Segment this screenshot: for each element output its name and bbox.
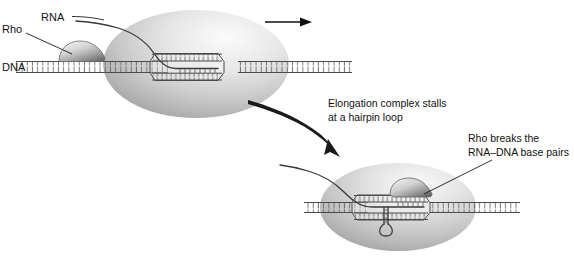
label-rho: Rho [2,23,22,35]
dna-template-strand-lower [354,213,428,220]
dna-duplex-lower-right [430,203,520,213]
caption-breaks-line1: Rho breaks the [468,132,539,144]
caption-breaks-line2: RNA–DNA base pairs [468,146,569,158]
arrow-right-icon [265,18,312,27]
leader-line-rna [72,17,104,21]
figure-canvas: RNA Rho DNA Elongation complex stalls at… [0,0,574,256]
dna-template-strand-upper [152,73,222,80]
label-dna: DNA [2,61,26,73]
curved-arrow-down-right-icon [248,100,340,157]
lower-stalled-complex [280,160,520,251]
caption-stall-line1: Elongation complex stalls [328,97,446,109]
diagram-svg: RNA Rho DNA Elongation complex stalls at… [0,0,574,256]
upper-elongation-complex: RNA Rho DNA [2,10,352,118]
caption-stall-line2: at a hairpin loop [328,111,403,123]
label-rna: RNA [41,11,65,23]
leader-line-rho [26,33,72,54]
dna-nontemplate-strand-upper [152,54,222,61]
dna-duplex-upper-right [238,62,352,73]
dna-duplex-upper-left [16,62,168,73]
